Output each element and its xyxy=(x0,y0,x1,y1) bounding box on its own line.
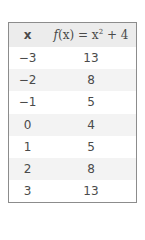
cell-x: 3 xyxy=(9,184,46,198)
function-table: x f(x) = x2 + 4 −3 13 −2 8 −1 5 0 4 1 5 … xyxy=(8,22,137,203)
cell-fx: 13 xyxy=(46,51,136,65)
header-fx: f(x) = x2 + 4 xyxy=(46,28,136,42)
cell-fx: 4 xyxy=(46,118,136,132)
cell-x: 2 xyxy=(9,162,46,176)
table-row: 3 13 xyxy=(9,180,136,202)
cell-fx: 13 xyxy=(46,184,136,198)
cell-fx: 5 xyxy=(46,95,136,109)
header-fx-arg: (x) xyxy=(58,28,74,42)
header-x: x xyxy=(9,28,46,42)
table-row: −1 5 xyxy=(9,91,136,113)
header-fx-tail: + 4 xyxy=(103,28,128,42)
table-header-row: x f(x) = x2 + 4 xyxy=(9,23,136,47)
table-row: 1 5 xyxy=(9,136,136,158)
cell-fx: 5 xyxy=(46,140,136,154)
cell-fx: 8 xyxy=(46,162,136,176)
cell-x: 1 xyxy=(9,140,46,154)
table-row: 0 4 xyxy=(9,114,136,136)
cell-x: −1 xyxy=(9,95,46,109)
table-row: 2 8 xyxy=(9,158,136,180)
cell-x: 0 xyxy=(9,118,46,132)
cell-fx: 8 xyxy=(46,73,136,87)
header-fx-eq: = x xyxy=(74,28,98,42)
cell-x: −2 xyxy=(9,73,46,87)
table-row: −3 13 xyxy=(9,47,136,69)
cell-x: −3 xyxy=(9,51,46,65)
table-row: −2 8 xyxy=(9,69,136,91)
